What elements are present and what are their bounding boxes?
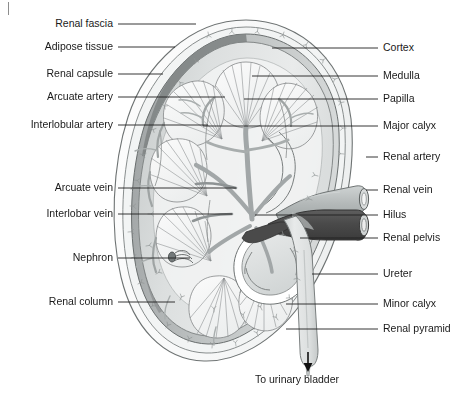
label-cortex: Cortex — [383, 42, 414, 53]
label-renal-column: Renal column — [49, 296, 113, 307]
label-ureter: Ureter — [383, 268, 412, 279]
label-nephron: Nephron — [73, 252, 113, 263]
label-renal-vein: Renal vein — [383, 184, 433, 195]
label-papilla: Papilla — [383, 93, 415, 104]
kidney-anatomy-figure — [0, 0, 466, 402]
label-interlobular-artery: Interlobular artery — [31, 119, 113, 130]
figure-caption-strip — [0, 386, 466, 402]
label-renal-pelvis: Renal pelvis — [383, 232, 440, 243]
label-interlobar-vein: Interlobar vein — [46, 208, 113, 219]
flow-direction-label: To urinary bladder — [255, 374, 339, 385]
label-renal-pyramid: Renal pyramid — [383, 323, 451, 334]
kidney-illustration — [114, 20, 369, 376]
label-adipose-tissue: Adipose tissue — [45, 41, 113, 52]
label-arcuate-vein: Arcuate vein — [55, 182, 113, 193]
label-renal-artery: Renal artery — [383, 151, 440, 162]
label-major-calyx: Major calyx — [383, 120, 436, 131]
label-hilus: Hilus — [383, 209, 406, 220]
label-arcuate-artery: Arcuate artery — [47, 91, 113, 102]
label-renal-capsule: Renal capsule — [46, 68, 113, 79]
label-renal-fascia: Renal fascia — [55, 18, 113, 29]
label-medulla: Medulla — [383, 70, 420, 81]
label-minor-calyx: Minor calyx — [383, 298, 436, 309]
